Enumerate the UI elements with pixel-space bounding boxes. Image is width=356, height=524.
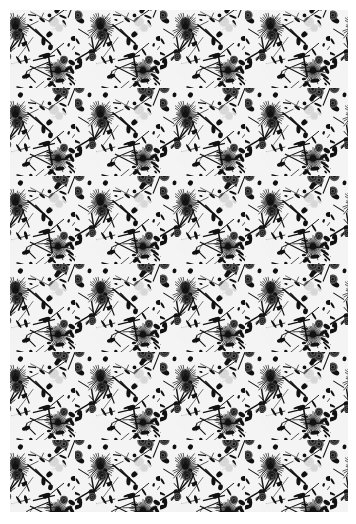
floral-pattern-image: Black and white dense floral botanical p… — [10, 10, 348, 512]
floral-pattern-svg — [10, 10, 348, 512]
